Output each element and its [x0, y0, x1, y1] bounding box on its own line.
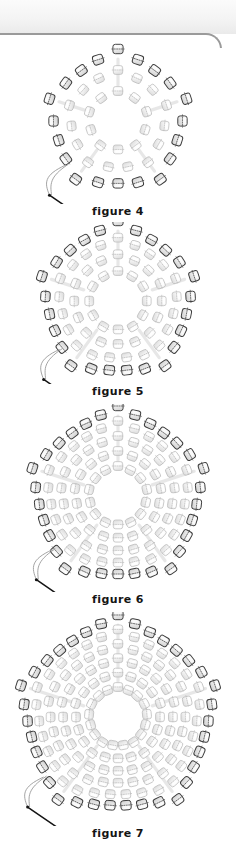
figure-caption-6: figure 6: [0, 593, 236, 606]
page-top-strip: [0, 0, 236, 34]
bead-ring-inner-rows: [42, 416, 194, 567]
bead-spokes: [59, 59, 177, 171]
bead-ring-inner-rows: [59, 59, 177, 172]
figure-block-6: figure 6: [0, 404, 236, 612]
bead-diagram-figure-4: [18, 42, 218, 204]
bead-row-0: [83, 87, 152, 154]
figure-caption-5: figure 5: [0, 385, 236, 398]
figure-block-5: figure 5: [0, 222, 236, 402]
figure-caption-4: figure 4: [0, 205, 236, 218]
bead-row-0: [84, 462, 153, 529]
bead-diagram-figure-7: [2, 612, 234, 826]
bead-diagram-figure-5: [12, 222, 224, 384]
page-chrome: [0, 0, 236, 48]
figure-caption-7: figure 7: [0, 827, 236, 840]
bead-row-0: [84, 683, 152, 751]
bead-row-0: [85, 267, 151, 334]
figure-block-4: figure 4: [0, 42, 236, 222]
figure-block-7: figure 7: [0, 612, 236, 856]
bead-diagram-figure-6: [6, 404, 230, 592]
